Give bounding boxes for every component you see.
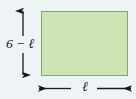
vertical-dimension-group: 6 − ℓ (0, 8, 41, 78)
horizontal-dimension-group: ℓ (36, 78, 134, 99)
geometry-figure: 6 − ℓ ℓ (0, 0, 136, 99)
rectangle-shape (41, 11, 128, 76)
horizontal-dimension-label: ℓ (72, 79, 98, 95)
vertical-dimension-label: 6 − ℓ (1, 36, 39, 51)
